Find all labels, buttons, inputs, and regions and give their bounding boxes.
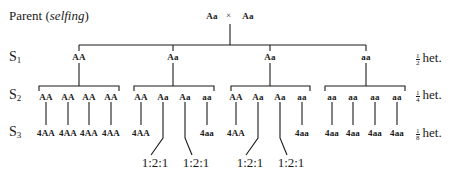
s1-genotype: Aa [264,53,275,62]
parent-label-close: ) [84,8,88,23]
selfing-pedigree-diagram: Parent (selfing) Aa × Aa S1 S2 S3 AA Aa … [0,0,454,178]
s2-genotype: aa [297,93,306,102]
s1-row-label: S1 [9,50,21,65]
parent-label-text: Parent ( [9,8,50,23]
fraction: 12 [416,53,420,66]
s3-outcome: 4AA [227,129,245,138]
s3-heterozygosity: 18het. [416,126,442,141]
parent-genotype-left: Aa [206,12,217,21]
s3-outcome: 4aa [200,129,214,138]
s1-genotype: AA [72,53,85,62]
s2-genotype: AA [229,93,242,102]
s3-outcome: 4AA [80,129,98,138]
s3-segregation-ratio: 1:2:1 [278,156,305,169]
s2-genotype: aa [392,93,401,102]
s3-outcome: 4aa [325,129,339,138]
s3-row-label: S3 [9,125,21,140]
connector-lines [0,0,454,178]
s3-outcome: 4aa [390,129,404,138]
s2-genotype: aa [370,93,379,102]
fraction: 14 [416,90,420,103]
s2-genotype: aa [348,93,357,102]
s2-genotype: AA [104,93,117,102]
s1-genotype: Aa [167,53,178,62]
s3-outcome: 4AA [132,129,150,138]
selfing-label: selfing [50,8,85,23]
s3-outcome: 4aa [295,129,309,138]
s1-heterozygosity: 12het. [416,51,442,66]
s3-outcome: 4AA [37,129,55,138]
s2-genotype: Aa [157,93,168,102]
s3-outcome: 4aa [368,129,382,138]
s2-genotype: aa [202,93,211,102]
parent-genotype-right: Aa [242,12,253,21]
s2-genotype: Aa [274,93,285,102]
s3-outcome: 4AA [59,129,77,138]
s2-genotype: Aa [179,93,190,102]
s2-genotype: aa [327,93,336,102]
fraction: 18 [416,128,420,141]
s2-genotype: AA [39,93,52,102]
s2-genotype: AA [61,93,74,102]
s3-outcome: 4aa [346,129,360,138]
s2-genotype: AA [134,93,147,102]
s2-heterozygosity: 14het. [416,88,442,103]
cross-symbol: × [226,11,231,20]
parent-row-label: Parent (selfing) [9,9,89,22]
s3-segregation-ratio: 1:2:1 [142,156,169,169]
s2-row-label: S2 [9,88,21,103]
s2-genotype: Aa [252,93,263,102]
s3-outcome: 4AA [102,129,120,138]
s2-genotype: AA [82,93,95,102]
s3-segregation-ratio: 1:2:1 [237,156,264,169]
s3-segregation-ratio: 1:2:1 [183,156,210,169]
s1-genotype: aa [361,53,370,62]
